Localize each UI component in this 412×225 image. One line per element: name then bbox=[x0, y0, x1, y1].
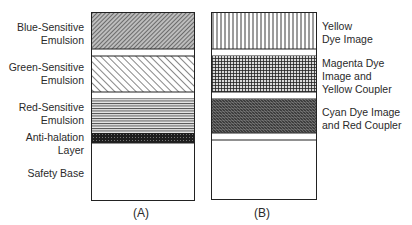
caption-a: (A) bbox=[133, 206, 149, 220]
label-blue-sensitive-emulsion: Blue-Sensitive Emulsion bbox=[0, 21, 84, 47]
yellow-dye-layer bbox=[212, 13, 316, 49]
green-sensitive-layer bbox=[92, 56, 194, 92]
label-line: Yellow Coupler bbox=[322, 83, 392, 96]
label-line: Anti-halation bbox=[0, 131, 84, 144]
label-cyan-dye-image: Cyan Dye Image and Red Coupler bbox=[322, 106, 401, 132]
red-sensitive-layer bbox=[92, 99, 194, 133]
film-cross-section-a bbox=[91, 12, 195, 201]
label-line: Layer bbox=[0, 144, 84, 157]
label-safety-base: Safety Base bbox=[0, 167, 84, 180]
label-line: Blue-Sensitive bbox=[0, 21, 84, 34]
magenta-dye-layer bbox=[212, 56, 316, 92]
label-line: Dye Image bbox=[322, 33, 373, 46]
label-line: Green-Sensitive bbox=[0, 61, 84, 74]
anti-halation-layer bbox=[92, 133, 194, 143]
label-magenta-dye-image: Magenta Dye Image and Yellow Coupler bbox=[322, 57, 392, 96]
film-cross-section-b bbox=[211, 12, 317, 200]
blue-sensitive-layer bbox=[92, 13, 194, 49]
label-line: Red-Sensitive bbox=[0, 101, 84, 114]
label-line: Emulsion bbox=[0, 74, 84, 87]
layer-patterns-a bbox=[92, 13, 194, 200]
label-line: and Red Coupler bbox=[322, 119, 401, 132]
cyan-dye-layer bbox=[212, 99, 316, 133]
label-line: Cyan Dye Image bbox=[322, 106, 401, 119]
label-red-sensitive-emulsion: Red-Sensitive Emulsion bbox=[0, 101, 84, 127]
label-line: Image and bbox=[322, 70, 392, 83]
label-green-sensitive-emulsion: Green-Sensitive Emulsion bbox=[0, 61, 84, 87]
label-line: Emulsion bbox=[0, 114, 84, 127]
label-line: Safety Base bbox=[0, 167, 84, 180]
label-line: Emulsion bbox=[0, 34, 84, 47]
layer-patterns-b bbox=[212, 13, 316, 199]
label-line: Yellow bbox=[322, 20, 373, 33]
label-line: Magenta Dye bbox=[322, 57, 392, 70]
label-anti-halation-layer: Anti-halation Layer bbox=[0, 131, 84, 157]
label-yellow-dye-image: Yellow Dye Image bbox=[322, 20, 373, 46]
caption-b: (B) bbox=[254, 206, 270, 220]
